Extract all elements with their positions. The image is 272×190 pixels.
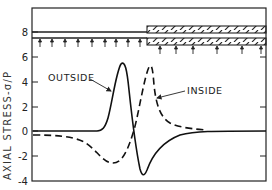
y-axis-label: AXIAL STRESS-σ/P [2,71,13,180]
pressure-arrows-left [39,39,142,47]
y-tick-8: 8 [22,27,28,38]
y-tick-neg2: -2 [18,151,28,162]
y-tick-6: 6 [22,52,28,63]
y-tick-labels: 8 6 4 2 0 -2 -4 [18,27,28,187]
y-tick-0: 0 [22,126,28,137]
stress-chart: 8 6 4 2 0 -2 -4 AXIAL STRESS-σ/P [0,0,272,190]
outside-label: OUTSIDE [48,72,95,83]
y-tick-neg4: -4 [18,176,28,187]
pressure-arrows-right [159,46,263,54]
pipe-inset [32,26,266,54]
inside-leader [157,91,185,98]
plot-frame [32,8,266,181]
y-tick-2: 2 [22,102,28,113]
y-tick-4: 4 [22,77,28,88]
inside-label: INSIDE [187,85,223,96]
outside-leader [90,79,111,91]
